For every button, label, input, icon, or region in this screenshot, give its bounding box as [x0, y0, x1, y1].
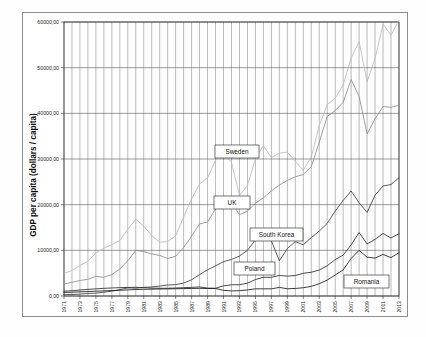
x-tick-label: 2005 — [332, 301, 338, 313]
y-tick-label: 60000,00 — [37, 19, 59, 25]
x-tick-label: 2003 — [316, 301, 322, 313]
callout-label: Sweden — [225, 148, 249, 155]
x-tick-label: 1977 — [109, 301, 115, 313]
x-tick-label: 1979 — [125, 301, 131, 313]
y-tick-label: 20000,00 — [37, 202, 59, 208]
x-tick-label: 1981 — [141, 301, 147, 313]
x-tick-label: 1985 — [173, 301, 179, 313]
x-tick-label: 2009 — [364, 301, 370, 313]
x-tick-label: 2011 — [380, 301, 386, 312]
series-callout-labels: SwedenUKSouth KoreaPolandRomania — [214, 145, 389, 288]
x-tick-label: 1999 — [284, 301, 290, 313]
callout-uk[interactable]: UK — [214, 196, 250, 209]
x-tick-label: 1993 — [236, 301, 242, 313]
y-tick-label: 10000,00 — [37, 247, 59, 253]
callout-sweden[interactable]: Sweden — [215, 145, 259, 158]
callout-label: UK — [228, 199, 238, 206]
y-tick-label: 50000,00 — [37, 65, 59, 71]
x-tick-label: 2007 — [348, 301, 354, 313]
y-axis-tick-labels: 0,0010000,0020000,0030000,0040000,005000… — [37, 19, 64, 299]
callout-label: Poland — [245, 265, 265, 272]
x-tick-label: 1971 — [61, 301, 67, 313]
callout-poland[interactable]: Poland — [234, 262, 275, 275]
x-tick-label: 1989 — [205, 301, 211, 313]
x-tick-label: 2001 — [300, 301, 306, 313]
x-tick-label: 1973 — [77, 301, 83, 313]
y-axis-title-group: GDP per capita (dollars / capita) — [29, 113, 38, 237]
x-tick-label: 1987 — [189, 301, 195, 313]
callout-romania[interactable]: Romania — [344, 275, 389, 288]
y-tick-label: 40000,00 — [37, 110, 59, 116]
y-tick-label: 30000,00 — [37, 156, 59, 162]
figure-container: GDP per capita (dollars / capita) 0,0010… — [0, 0, 426, 337]
x-tick-label: 1983 — [157, 301, 163, 313]
x-tick-label: 1997 — [268, 301, 274, 313]
x-axis-tick-labels: 1971197319751977197919811983198519871989… — [61, 296, 402, 313]
callout-label: Romania — [354, 278, 380, 285]
callout-south-korea[interactable]: South Korea — [250, 228, 303, 241]
gdp-per-capita-line-chart: GDP per capita (dollars / capita) 0,0010… — [0, 0, 426, 337]
callout-label: South Korea — [259, 231, 295, 238]
y-tick-label: 0,00 — [49, 293, 59, 299]
x-tick-label: 1975 — [93, 301, 99, 313]
x-tick-label: 1991 — [221, 301, 227, 313]
y-axis-title: GDP per capita (dollars / capita) — [29, 113, 38, 237]
x-tick-label: 2013 — [396, 301, 402, 313]
x-tick-label: 1995 — [252, 301, 258, 313]
